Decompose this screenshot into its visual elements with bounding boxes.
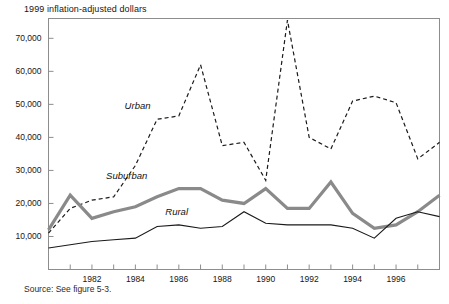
x-axis-tick-label: 1982 <box>82 274 101 284</box>
y-axis-tick-label: 60,000 <box>16 66 42 76</box>
y-axis-ticks <box>49 38 54 236</box>
series-lines <box>49 20 440 248</box>
x-axis-tick-label: 1986 <box>169 274 188 284</box>
x-axis-ticks <box>49 265 440 270</box>
y-axis-labels: 10,00020,00030,00040,00050,00060,00070,0… <box>16 33 42 241</box>
figure-container: 1999 inflation-adjusted dollars 10,00020… <box>0 0 449 304</box>
series-label-urban: Urban <box>125 100 151 111</box>
x-axis-tick-label: 1992 <box>300 274 319 284</box>
y-axis-tick-label: 50,000 <box>16 99 42 109</box>
x-axis-tick-label: 1990 <box>256 274 275 284</box>
series-line-rural <box>49 212 440 248</box>
y-axis-tick-label: 40,000 <box>16 132 42 142</box>
series-label-suburban: Suburban <box>106 170 147 181</box>
y-axis-tick-label: 10,000 <box>16 231 42 241</box>
x-axis-tick-label: 1994 <box>343 274 362 284</box>
y-axis-tick-label: 20,000 <box>16 198 42 208</box>
source-note: Source: See figure 5-3. <box>24 284 111 294</box>
y-axis-tick-label: 30,000 <box>16 165 42 175</box>
x-axis-tick-label: 1988 <box>213 274 232 284</box>
series-label-rural: Rural <box>165 206 189 217</box>
line-chart: 10,00020,00030,00040,00050,00060,00070,0… <box>0 0 449 304</box>
series-line-urban <box>49 20 440 233</box>
series-line-suburban <box>49 182 440 230</box>
x-axis-tick-label: 1984 <box>126 274 145 284</box>
y-axis-tick-label: 70,000 <box>16 33 42 43</box>
x-axis-tick-label: 1996 <box>387 274 406 284</box>
x-axis-labels: 19821984198619881990199219941996 <box>82 274 405 284</box>
